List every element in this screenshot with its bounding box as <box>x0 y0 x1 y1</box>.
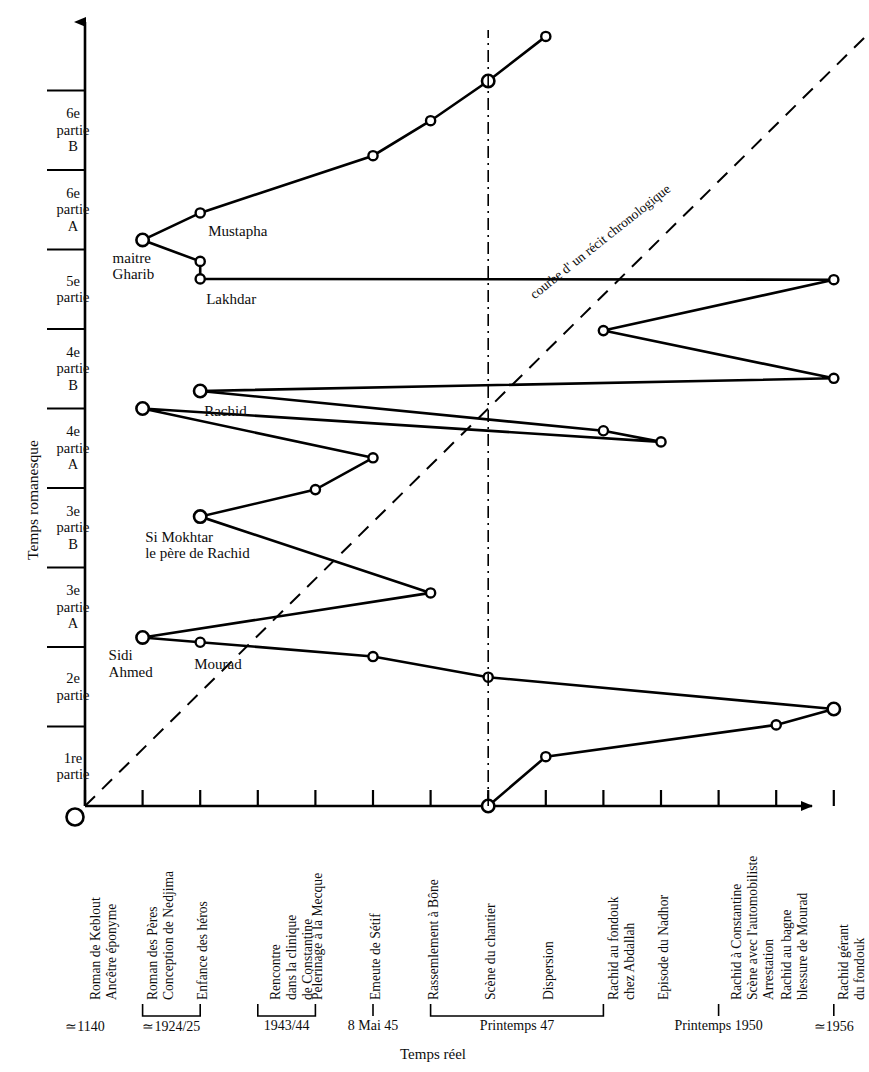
y-axis-category-label: 6epartieA <box>44 185 102 235</box>
x-label-line: Emeute de Sétif <box>368 913 384 1000</box>
y-label-line: 5e <box>44 273 102 290</box>
x-label-line: Rachid à Constantine <box>729 856 745 1000</box>
y-label-line: partie <box>44 289 102 306</box>
data-point-annotation: Lakhdar <box>206 291 256 308</box>
data-point-marker <box>656 437 665 446</box>
x-axis-category-label: Dispersion <box>541 941 557 1000</box>
data-point-marker <box>426 588 435 597</box>
annotation-line: Mourad <box>194 656 242 673</box>
date-group-label: 8 Mai 45 <box>303 1018 443 1034</box>
annotation-line: Si Mokhtar <box>145 529 250 546</box>
annotation-line: Lakhdar <box>206 291 256 308</box>
data-point-marker <box>599 426 608 435</box>
y-label-line: 3e <box>44 582 102 599</box>
annotation-line: Rachid <box>204 403 247 420</box>
x-label-line: Conception de Nedjima <box>161 871 177 1000</box>
origin-marker <box>67 809 84 826</box>
x-label-line: Rencontre <box>268 915 284 1000</box>
y-label-line: 3e <box>44 503 102 520</box>
y-label-line: 6e <box>44 105 102 122</box>
y-label-line: A <box>44 218 102 235</box>
data-point-marker <box>772 720 781 729</box>
x-axis-category-label: Rencontredans la cliniquede Constantine <box>268 915 316 1000</box>
x-label-line: Rachid gérant <box>836 924 852 1000</box>
y-axis-category-label: 3epartieA <box>44 582 102 632</box>
x-label-line: chez Abdallah <box>622 897 638 1000</box>
data-point-annotation: Rachid <box>204 403 247 420</box>
y-axis-category-label: 6epartieB <box>44 105 102 155</box>
data-point-marker <box>368 453 377 462</box>
x-label-line: Rachid au bagne <box>779 893 795 1000</box>
x-axis-category-label: Roman des PèresConception de Nedjima <box>145 871 177 1000</box>
data-point-marker <box>368 151 377 160</box>
x-axis-category-label: Rachid au fondoukchez Abdallah <box>606 897 638 1000</box>
y-label-line: partie <box>44 766 102 783</box>
data-point-marker <box>368 652 377 661</box>
y-label-line: 6e <box>44 185 102 202</box>
y-axis-category-label: 5epartie <box>44 273 102 306</box>
annotation-line: Gharib <box>113 266 155 283</box>
data-point-marker <box>136 234 148 246</box>
y-label-line: partie <box>44 599 102 616</box>
x-label-line: Ancêtre éponyme <box>104 897 120 1000</box>
data-point-marker <box>828 703 840 715</box>
data-point-marker <box>541 32 550 41</box>
x-label-line: Arrestation <box>761 856 777 1000</box>
x-label-line: Scène du chantier <box>483 903 499 1000</box>
data-point-marker <box>136 631 148 643</box>
y-label-line: 1re <box>44 750 102 767</box>
data-point-marker <box>196 638 205 647</box>
y-label-line: B <box>44 377 102 394</box>
x-label-line: dans la clinique <box>284 915 300 1000</box>
data-point-marker <box>829 275 838 284</box>
date-group-label: Printemps 47 <box>447 1018 587 1034</box>
annotation-line: Ahmed <box>109 664 153 681</box>
x-label-line: Roman des Pères <box>145 871 161 1000</box>
x-label-line: Roman de Keblout <box>88 897 104 1000</box>
x-label-line: blessure de Mourad <box>795 893 811 1000</box>
data-point-annotation: maitreGharib <box>113 250 155 283</box>
data-point-annotation: Mourad <box>194 656 242 673</box>
y-label-line: 4e <box>44 344 102 361</box>
annotation-line: maitre <box>113 250 155 267</box>
y-axis-category-label: 4epartieB <box>44 344 102 394</box>
data-point-marker <box>194 510 206 522</box>
axis-layer <box>47 22 834 826</box>
y-axis-category-label: 2epartie <box>44 670 102 703</box>
y-label-line: partie <box>44 360 102 377</box>
reference-line-layer <box>85 11 869 806</box>
data-point-marker <box>311 485 320 494</box>
annotation-line: le père de Rachid <box>145 545 250 562</box>
y-axis-category-label: 3epartieB <box>44 503 102 553</box>
x-label-line: du fondouk <box>852 924 868 1000</box>
x-label-line: Rassemlement à Bône <box>426 879 442 1000</box>
data-point-marker <box>196 257 205 266</box>
y-label-line: partie <box>44 687 102 704</box>
x-axis-category-label: Scène du chantier <box>483 903 499 1000</box>
data-point-marker <box>426 116 435 125</box>
x-axis-category-label: Roman de KebloutAncêtre éponyme <box>88 897 120 1000</box>
x-axis-category-label: Episode du Nadhor <box>656 895 672 1000</box>
y-axis-category-label: 4epartieA <box>44 423 102 473</box>
data-point-marker <box>196 274 205 283</box>
x-axis-category-label: Enfance des héros <box>195 901 211 1000</box>
chronological-reference-line <box>85 11 869 806</box>
y-label-line: A <box>44 615 102 632</box>
x-label-line: Rachid au fondouk <box>606 897 622 1000</box>
y-label-line: partie <box>44 440 102 457</box>
x-axis-category-label: Emeute de Sétif <box>368 913 384 1000</box>
data-point-marker <box>196 208 205 217</box>
y-label-line: partie <box>44 519 102 536</box>
x-label-line: Scène avec l'automobiliste <box>745 856 761 1000</box>
y-label-line: A <box>44 456 102 473</box>
y-label-line: 2e <box>44 670 102 687</box>
data-point-annotation: Si Mokhtarle père de Rachid <box>145 529 250 562</box>
x-label-line: Pelerinage à la Mecque <box>310 873 326 1000</box>
x-axis-category-label: Rachid à ConstantineScène avec l'automob… <box>729 856 777 1000</box>
chart-figure: Temps romanesque Temps réel courbe d' un… <box>0 0 869 1072</box>
x-axis-category-label: Rachid au bagneblessure de Mourad <box>779 893 811 1000</box>
annotation-line: Mustapha <box>208 223 267 240</box>
y-axis-category-label: 1repartie <box>44 750 102 783</box>
data-point-marker <box>541 752 550 761</box>
y-label-line: B <box>44 536 102 553</box>
